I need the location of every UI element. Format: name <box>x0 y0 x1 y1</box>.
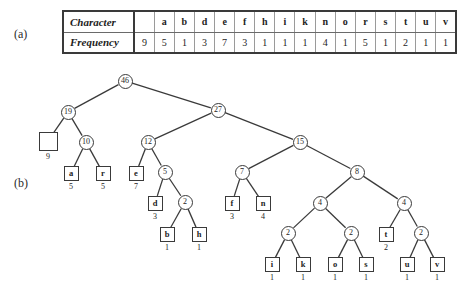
tree-leaf-node: i <box>265 257 280 272</box>
character-cell: e <box>215 11 235 32</box>
tree-internal-node: 8 <box>350 165 365 180</box>
frequency-cell: 2 <box>396 32 416 53</box>
tree-edge <box>72 118 82 135</box>
frequency-cell: 1 <box>416 32 436 53</box>
table-row: Frequency9513731114151211 <box>63 32 456 53</box>
tree-internal-node: 2 <box>344 226 359 241</box>
figure-canvas: (a) (b) Character abdefhiknorstuvFrequen… <box>0 0 457 292</box>
leaf-frequency-label: 1 <box>326 274 344 282</box>
character-cell: s <box>375 11 395 32</box>
tree-edge <box>338 240 347 258</box>
tree-leaf-node: h <box>192 227 207 242</box>
frequency-cell: 9 <box>134 32 154 53</box>
leaf-frequency-label: 5 <box>62 183 80 191</box>
tree-edge <box>325 208 345 228</box>
character-cell: u <box>416 11 436 32</box>
tree-leaf-node: v <box>430 257 445 272</box>
tree-edge <box>354 240 362 257</box>
tree-internal-node: 4 <box>397 196 412 211</box>
tree-edge <box>408 210 418 227</box>
character-cell: d <box>194 11 214 32</box>
tree-edge <box>225 113 293 140</box>
tree-leaf-node: u <box>400 257 415 272</box>
character-cell: k <box>295 11 315 32</box>
frequency-cell: 5 <box>154 32 174 53</box>
tree-edge <box>155 113 211 139</box>
huffman-tree: 4619279101215a5r5e7578d32f3n444b1h122t22… <box>0 66 457 292</box>
leaf-frequency-label: 3 <box>146 213 164 221</box>
tree-edge <box>293 208 314 228</box>
leaf-frequency-label: 1 <box>357 274 375 282</box>
tree-edge <box>291 240 299 257</box>
tree-edge <box>234 179 239 196</box>
character-cell: b <box>174 11 194 32</box>
tree-leaf-node: k <box>296 257 311 272</box>
leaf-frequency-label: 1 <box>263 274 281 282</box>
row-header-frequency: Frequency <box>63 32 134 53</box>
leaf-frequency-label: 5 <box>94 183 112 191</box>
tree-internal-node: 15 <box>293 135 308 150</box>
frequency-cell: 1 <box>335 32 355 53</box>
tree-edge <box>139 149 146 166</box>
tree-leaf-node: b <box>160 227 175 242</box>
leaf-frequency-label: 1 <box>158 244 176 252</box>
frequency-cell: 1 <box>375 32 395 53</box>
frequency-cell: 1 <box>255 32 275 53</box>
leaf-frequency-label: 9 <box>39 153 57 161</box>
character-cell: o <box>335 11 355 32</box>
tree-internal-node: 2 <box>281 226 296 241</box>
tree-internal-node: 10 <box>79 135 94 150</box>
character-cell: v <box>436 11 456 32</box>
tree-edge <box>132 83 211 108</box>
tree-edge <box>424 240 433 258</box>
frequency-cell: 5 <box>355 32 375 53</box>
tree-leaf-node: n <box>256 196 271 211</box>
frequency-cell: 1 <box>174 32 194 53</box>
tree-edge <box>74 149 82 166</box>
frequency-cell: 7 <box>215 32 235 53</box>
part-label-a: (a) <box>14 27 27 42</box>
tree-edge <box>169 178 181 196</box>
leaf-frequency-label: 7 <box>127 183 145 191</box>
leaf-frequency-label: 3 <box>223 213 241 221</box>
frequency-cell: 1 <box>295 32 315 53</box>
character-cell: a <box>154 11 174 32</box>
character-cell: f <box>235 11 255 32</box>
frequency-table: Character abdefhiknorstuvFrequency951373… <box>62 10 457 54</box>
tree-internal-node: 12 <box>141 135 156 150</box>
leaf-frequency-label: 1 <box>190 244 208 252</box>
leaf-frequency-label: 4 <box>254 213 272 221</box>
tree-edge <box>75 85 119 109</box>
frequency-cell: 1 <box>436 32 456 53</box>
tree-leaf-node: a <box>64 166 79 181</box>
tree-internal-node: 7 <box>235 165 250 180</box>
frequency-cell: 3 <box>194 32 214 53</box>
leaf-frequency-label: 2 <box>377 244 395 252</box>
tree-leaf-node: f <box>225 196 240 211</box>
tree-edge <box>171 209 182 228</box>
character-cell: h <box>255 11 275 32</box>
tree-edge <box>307 145 351 168</box>
tree-edge <box>90 149 100 167</box>
frequency-cell: 1 <box>275 32 295 53</box>
leaf-frequency-label: 1 <box>398 274 416 282</box>
tree-internal-node: 46 <box>118 74 133 89</box>
tree-leaf-node <box>39 132 58 151</box>
tree-edge <box>326 177 352 198</box>
character-cell: n <box>315 11 335 32</box>
tree-edge <box>152 149 162 166</box>
frequency-cell: 4 <box>315 32 335 53</box>
tree-edge <box>275 240 284 258</box>
tree-internal-node: 5 <box>158 165 173 180</box>
tree-edge <box>363 176 397 199</box>
tree-edge <box>249 145 294 168</box>
row-header-character: Character <box>63 11 134 32</box>
tree-leaf-node: e <box>129 166 144 181</box>
leaf-frequency-label: 1 <box>428 274 446 282</box>
tree-edge <box>157 179 162 196</box>
tree-internal-node: 19 <box>61 105 76 120</box>
tree-internal-node: 2 <box>178 195 193 210</box>
table-row: Character abdefhiknorstuv <box>63 11 456 32</box>
tree-internal-node: 27 <box>211 103 226 118</box>
tree-edge <box>410 240 418 257</box>
